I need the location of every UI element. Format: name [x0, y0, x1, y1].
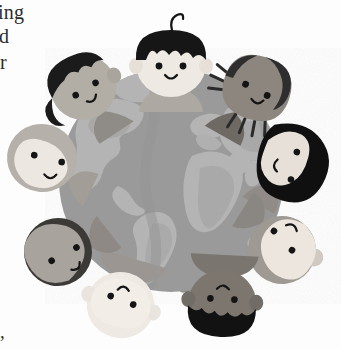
illustration-canvas: [0, 0, 341, 349]
child-top-cowlick: [171, 14, 183, 30]
child-top-ear-right: [199, 58, 213, 74]
child-top-eye-right: [180, 63, 187, 70]
child-top-ear-left: [129, 58, 143, 74]
child-top-eye-left: [156, 63, 163, 70]
scanned-page: ing d r ,: [0, 0, 341, 349]
children-around-globe-illustration: [0, 0, 341, 349]
